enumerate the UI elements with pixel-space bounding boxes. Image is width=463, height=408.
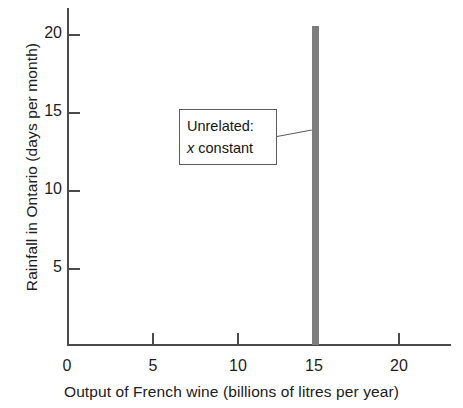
y-tick-label: 15 [22, 102, 62, 120]
x-axis-line [67, 344, 451, 346]
annotation-leader-line [277, 128, 312, 139]
x-tick-mark [237, 333, 239, 344]
y-tick-mark [69, 268, 80, 270]
annotation-callout: Unrelated: x constant [179, 109, 277, 165]
annotation-line-2-text: constant [194, 140, 253, 156]
annotation-line-2: x constant [187, 137, 276, 159]
y-axis-line [67, 8, 69, 346]
x-axis-title: Output of French wine (billions of litre… [0, 383, 463, 401]
y-tick-mark [69, 34, 80, 36]
y-tick-label: 10 [22, 180, 62, 198]
x-tick-label: 20 [379, 357, 419, 375]
y-tick-mark [69, 112, 80, 114]
x-tick-mark [398, 333, 400, 344]
x-tick-label: 0 [47, 357, 87, 375]
y-tick-mark [69, 190, 80, 192]
annotation-line-1: Unrelated: [187, 115, 276, 137]
x-tick-mark [152, 333, 154, 344]
y-axis-title: Rainfall in Ontario (days per month) [23, 0, 41, 337]
y-tick-label: 20 [22, 24, 62, 42]
data-bar [312, 26, 319, 345]
x-tick-label: 5 [133, 357, 173, 375]
chart-figure: Rainfall in Ontario (days per month) Out… [0, 0, 463, 408]
y-tick-label: 5 [22, 258, 62, 276]
x-tick-label: 15 [294, 357, 334, 375]
x-tick-label: 10 [218, 357, 258, 375]
